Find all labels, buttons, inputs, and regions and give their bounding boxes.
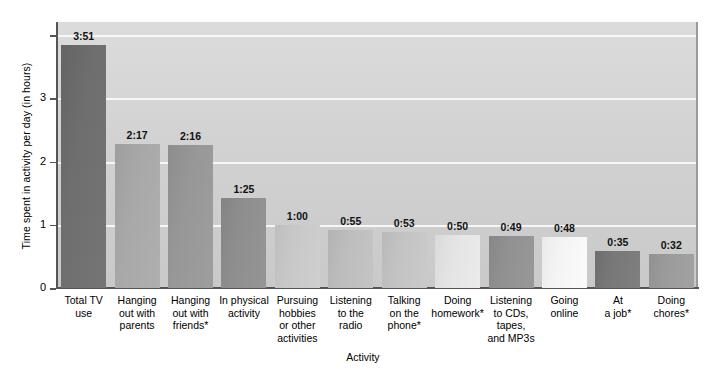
bar-value-4: 1:25 [214, 183, 274, 195]
category-label-8: Doinghomework* [428, 294, 487, 319]
bar-value-6: 0:55 [321, 215, 381, 227]
y-tick-label-3: 3 [24, 91, 46, 103]
category-label-7: Talkingon thephone* [375, 294, 434, 332]
category-label-3: Hangingout withfriends* [161, 294, 220, 332]
category-label-4: In physicalactivity [214, 294, 273, 319]
y-tick-label-0: 0 [24, 281, 46, 293]
bar-value-2: 2:17 [107, 129, 167, 141]
category-label-11: Ata job* [588, 294, 647, 319]
y-tick-label-2: 2 [24, 155, 46, 167]
category-label-10: Goingonline [535, 294, 594, 319]
bar-value-11: 0:35 [588, 236, 648, 248]
bar-8 [435, 235, 480, 288]
category-label-2: Hangingout withparents [107, 294, 166, 332]
bar-value-8: 0:50 [428, 220, 488, 232]
bar-11 [595, 251, 640, 288]
bar-value-5: 1:00 [267, 210, 327, 222]
bar-value-3: 2:16 [161, 130, 221, 142]
bar-value-9: 0:49 [481, 221, 541, 233]
bar-10 [542, 237, 587, 288]
bar-7 [382, 232, 427, 288]
y-tick-mark-1 [50, 225, 56, 227]
bar-chart: Time spent in activity per day (in hours… [0, 0, 726, 374]
gridline-4 [57, 35, 696, 37]
x-axis-title: Activity [0, 351, 726, 363]
y-tick-mark-3 [50, 98, 56, 100]
category-label-9: Listeningto CDs,tapes,and MP3s [481, 294, 540, 344]
bar-6 [328, 230, 373, 288]
bar-value-12: 0:32 [641, 239, 701, 251]
category-label-6: Listeningto theradio [321, 294, 380, 332]
bar-12 [649, 254, 694, 288]
bar-value-7: 0:53 [374, 217, 434, 229]
y-axis-line [56, 22, 58, 289]
bar-3 [168, 145, 213, 288]
category-label-5: Pursuinghobbiesor otheractivities [268, 294, 327, 344]
y-tick-mark-0 [50, 288, 56, 290]
bar-value-10: 0:48 [534, 222, 594, 234]
bar-value-1: 3:51 [54, 30, 114, 42]
y-tick-label-1: 1 [24, 218, 46, 230]
bar-9 [489, 236, 534, 288]
category-label-1: Total TVuse [54, 294, 113, 319]
bar-5 [275, 225, 320, 288]
y-tick-mark-2 [50, 162, 56, 164]
gridline-3 [57, 98, 696, 100]
bar-2 [115, 144, 160, 288]
bar-1 [61, 45, 106, 288]
category-label-12: Doingchores* [642, 294, 701, 319]
bar-4 [221, 198, 266, 288]
